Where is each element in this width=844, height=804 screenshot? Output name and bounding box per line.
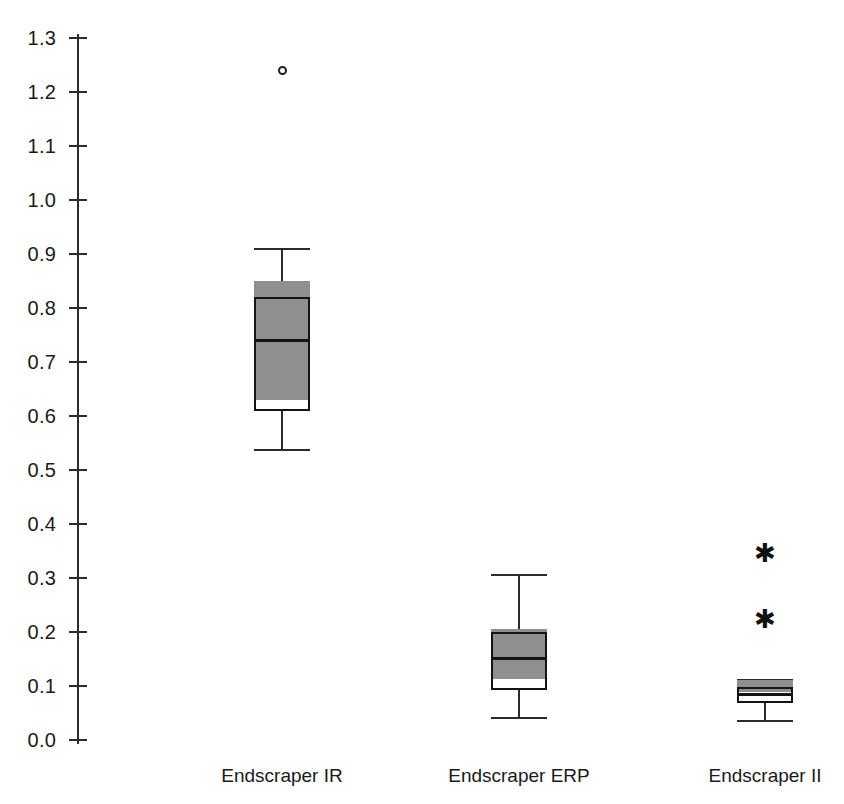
lower-whisker-stem: [764, 703, 766, 721]
median-line: [737, 693, 793, 696]
extreme-value-asterisk-icon: ✱: [750, 606, 780, 632]
boxplot-group: ✱✱: [0, 0, 844, 804]
lower-whisker-cap: [737, 720, 793, 722]
x-axis-category-label: Endscraper IR: [172, 765, 392, 787]
x-axis-category-label: Endscraper ERP: [409, 765, 629, 787]
x-axis-category-label: Endscraper II: [655, 765, 844, 787]
extreme-value-asterisk-icon: ✱: [750, 540, 780, 566]
boxplot-chart: 1.31.21.11.00.90.80.70.60.50.40.30.20.10…: [0, 0, 844, 804]
